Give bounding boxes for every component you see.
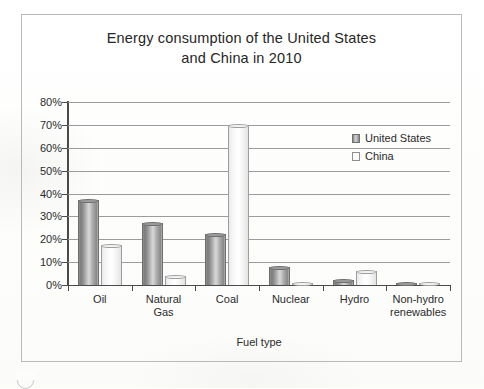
y-axis-tick-20 bbox=[62, 239, 68, 240]
bar-coal-united-states[interactable] bbox=[205, 234, 226, 285]
y-axis-label-80: 80% bbox=[28, 96, 62, 108]
gridline-70 bbox=[68, 125, 450, 126]
legend-swatch-united-states-icon bbox=[352, 134, 360, 143]
y-axis-label-30: 30% bbox=[28, 210, 62, 222]
bar-non-hydro-renewables-united-states[interactable] bbox=[396, 283, 417, 286]
bar-nuclear-united-states[interactable] bbox=[269, 267, 290, 285]
gridline-80 bbox=[68, 102, 450, 103]
chart-title-line-2: and China in 2010 bbox=[21, 48, 462, 68]
bar-top-cap bbox=[269, 266, 290, 270]
gridline-10 bbox=[68, 262, 450, 263]
y-axis-tick-70 bbox=[62, 125, 68, 126]
y-axis-tick-60 bbox=[62, 148, 68, 149]
x-axis-tick-1 bbox=[132, 285, 133, 291]
chart-legend: United States China bbox=[352, 131, 431, 167]
x-axis-tick-5 bbox=[386, 285, 387, 291]
y-axis-label-10: 10% bbox=[28, 256, 62, 268]
gridline-30 bbox=[68, 216, 450, 217]
plot-area bbox=[68, 102, 450, 285]
bar-top-cap bbox=[165, 275, 186, 279]
y-axis-label-50: 50% bbox=[28, 165, 62, 177]
y-axis-tick-50 bbox=[62, 171, 68, 172]
y-axis-label-70: 70% bbox=[28, 119, 62, 131]
x-axis-tick-0 bbox=[68, 285, 69, 291]
bar-hydro-china[interactable] bbox=[356, 271, 377, 285]
y-axis-tick-labels: 80%70%60%50%40%30%20%10%0% bbox=[26, 102, 62, 285]
bar-non-hydro-renewables-china[interactable] bbox=[419, 283, 440, 286]
gridline-50 bbox=[68, 171, 450, 172]
page-corner-glyph-icon bbox=[17, 372, 34, 389]
legend-item-united-states[interactable]: United States bbox=[352, 131, 431, 146]
x-axis-tick-end bbox=[450, 285, 451, 291]
bar-coal-china[interactable] bbox=[228, 125, 249, 285]
x-axis-title: Fuel type bbox=[68, 336, 450, 348]
y-axis-tick-80 bbox=[62, 102, 68, 103]
x-axis-tick-3 bbox=[259, 285, 260, 291]
bar-hydro-united-states[interactable] bbox=[333, 280, 354, 285]
bar-natural-gas-china[interactable] bbox=[165, 276, 186, 285]
bar-top-cap bbox=[333, 279, 354, 283]
bar-nuclear-china[interactable] bbox=[292, 283, 313, 286]
chart-title: Energy consumption of the United States … bbox=[21, 28, 462, 68]
gridline-20 bbox=[68, 239, 450, 240]
bar-top-cap bbox=[396, 282, 417, 286]
y-axis-label-20: 20% bbox=[28, 233, 62, 245]
bar-oil-china[interactable] bbox=[101, 245, 122, 285]
y-axis-tick-10 bbox=[62, 262, 68, 263]
bar-top-cap bbox=[292, 282, 313, 286]
bar-top-cap bbox=[228, 124, 249, 128]
bar-oil-united-states[interactable] bbox=[78, 200, 99, 285]
bar-top-cap bbox=[78, 199, 99, 203]
y-axis-label-40: 40% bbox=[28, 188, 62, 200]
y-axis-tick-40 bbox=[62, 194, 68, 195]
bar-natural-gas-united-states[interactable] bbox=[142, 223, 163, 285]
legend-label-china: China bbox=[365, 149, 394, 164]
gridline-40 bbox=[68, 194, 450, 195]
y-axis-label-60: 60% bbox=[28, 142, 62, 154]
legend-item-china[interactable]: China bbox=[352, 149, 431, 164]
bar-top-cap bbox=[205, 233, 226, 237]
bar-top-cap bbox=[419, 282, 440, 286]
legend-swatch-china-icon bbox=[352, 152, 360, 161]
x-axis-tick-2 bbox=[195, 285, 196, 291]
legend-label-united-states: United States bbox=[365, 131, 431, 146]
x-axis-label-non-hydro-renewables: Non-hydrorenewables bbox=[372, 293, 464, 319]
bar-top-cap bbox=[356, 270, 377, 274]
x-axis-tick-4 bbox=[323, 285, 324, 291]
y-axis-tick-30 bbox=[62, 216, 68, 217]
bar-top-cap bbox=[101, 244, 122, 248]
bar-top-cap bbox=[142, 222, 163, 226]
y-axis-label-0: 0% bbox=[28, 279, 62, 291]
chart-title-line-1: Energy consumption of the United States bbox=[21, 28, 462, 48]
